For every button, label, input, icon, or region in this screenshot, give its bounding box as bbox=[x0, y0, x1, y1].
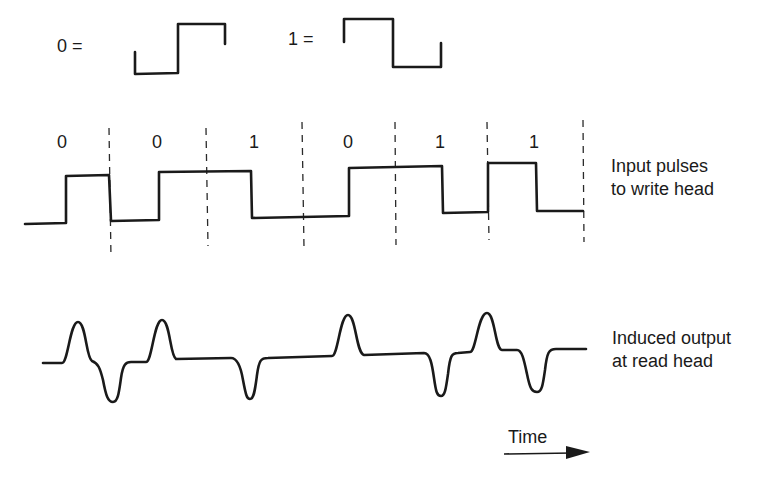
bit-label: 0 bbox=[343, 132, 353, 152]
boundary-line bbox=[302, 122, 304, 248]
boundary-line bbox=[395, 122, 396, 245]
one-encoding-symbol bbox=[344, 19, 441, 67]
legend-one: 1 = bbox=[288, 19, 441, 67]
bit-labels: 0 0 1 0 1 1 bbox=[57, 132, 539, 152]
bit-label: 0 bbox=[57, 132, 67, 152]
bit-label: 1 bbox=[435, 132, 445, 152]
boundary-line bbox=[583, 120, 584, 242]
legend-zero-label: 0 = bbox=[57, 36, 83, 56]
input-label-line1: Input pulses bbox=[611, 156, 708, 176]
input-pulses-label: Input pulses to write head bbox=[611, 156, 714, 199]
output-label-line2: at read head bbox=[612, 351, 713, 371]
time-arrow-line bbox=[504, 453, 572, 454]
induced-output-label: Induced output at read head bbox=[612, 328, 731, 371]
time-label: Time bbox=[508, 427, 547, 447]
time-axis: Time bbox=[504, 427, 590, 459]
legend-zero: 0 = bbox=[57, 24, 225, 74]
read-head-output-waveform bbox=[43, 313, 586, 402]
magnetic-recording-diagram: 0 = 1 = 0 0 1 0 1 1 Input pulses to writ… bbox=[0, 0, 784, 485]
bit-label: 1 bbox=[529, 132, 539, 152]
output-label-line1: Induced output bbox=[612, 328, 731, 348]
zero-encoding-symbol bbox=[135, 24, 225, 74]
bit-label: 1 bbox=[249, 132, 259, 152]
input-label-line2: to write head bbox=[611, 179, 714, 199]
boundary-line bbox=[206, 128, 208, 246]
legend-one-label: 1 = bbox=[288, 29, 314, 49]
bit-label: 0 bbox=[152, 132, 162, 152]
arrow-right-icon bbox=[566, 446, 590, 459]
